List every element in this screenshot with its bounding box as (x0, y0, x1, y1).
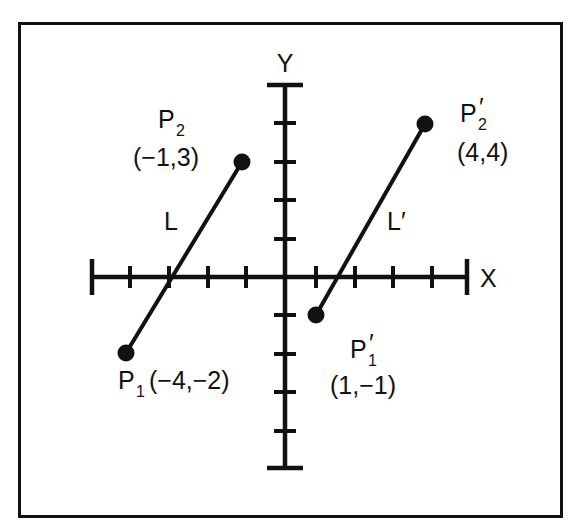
label-P2-coords: (−1,3) (133, 143, 199, 171)
label-P2-prime: P 2 ′ (4,4) (457, 93, 508, 166)
label-P1-coords: (−4,−2) (149, 366, 230, 394)
label-P1: P 1 (−4,−2) (118, 366, 230, 400)
label-P1-prime-mark: ′ (369, 329, 374, 357)
segment-L-prime (316, 124, 425, 315)
label-P2-prime-mark: ′ (479, 93, 484, 121)
x-axis-label: X (480, 264, 497, 292)
point-P2-prime[interactable] (417, 116, 434, 133)
label-P1-prime-base: P (350, 335, 367, 363)
label-P2: P 2 (−1,3) (133, 105, 199, 171)
label-line-L-prime: L′ (387, 207, 406, 235)
label-P1-subscript: 1 (136, 383, 145, 400)
label-P2-prime-base: P (460, 99, 477, 127)
label-P1-prime: P 1 ′ (1,−1) (330, 329, 396, 399)
point-P1[interactable] (118, 345, 135, 362)
label-P2-prime-coords: (4,4) (457, 138, 508, 166)
label-line-L: L (164, 207, 178, 235)
figure-container: X Y P 2 (−1,3) P 2 ′ (4,4) P 1 (−4,−2) P… (0, 0, 581, 530)
label-P2-base: P (158, 105, 175, 133)
label-P1-prime-coords: (1,−1) (330, 371, 396, 399)
point-P2[interactable] (234, 154, 251, 171)
point-P1-prime[interactable] (308, 307, 325, 324)
segment-L (126, 162, 242, 353)
label-P1-base: P (118, 366, 135, 394)
label-P2-subscript: 2 (176, 122, 185, 139)
y-axis-label: Y (277, 49, 294, 77)
coordinate-plot: X Y P 2 (−1,3) P 2 ′ (4,4) P 1 (−4,−2) P… (0, 0, 581, 530)
